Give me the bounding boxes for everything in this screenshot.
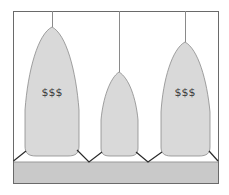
pod-left-label: $$$	[42, 86, 63, 99]
pods-diagram: $$$ $$$	[0, 0, 229, 195]
pod-right-label: $$$	[175, 86, 196, 99]
base-bar	[14, 162, 218, 183]
